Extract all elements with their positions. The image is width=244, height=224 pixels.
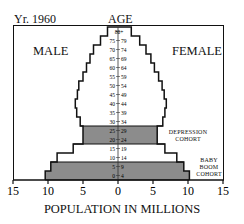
svg-text:0: 0 [112,173,115,179]
svg-text:20: 20 [110,137,116,143]
svg-text:70: 70 [110,47,116,53]
x-axis-title: POPULATION IN MILLIONS [24,202,220,217]
population-pyramid: 0459101415192024252930343539404445495054… [0,0,244,224]
x-tick-label: 15 [217,184,229,198]
depression-cohort-label: DEPRESSION COHORT [160,129,216,143]
svg-text:34: 34 [121,119,127,125]
svg-text:5: 5 [112,164,115,170]
svg-text:39: 39 [121,110,127,116]
svg-text:24: 24 [121,137,127,143]
x-tick-label: 10 [42,184,54,198]
x-tick-label: 10 [182,184,194,198]
svg-text:25: 25 [110,128,116,134]
x-tick-label: 0 [115,184,121,198]
svg-text:4: 4 [121,173,124,179]
svg-text:55: 55 [110,74,116,80]
svg-text:35: 35 [110,110,116,116]
svg-text:9: 9 [121,164,124,170]
svg-text:54: 54 [121,83,127,89]
svg-text:79: 79 [121,38,127,44]
svg-text:64: 64 [121,65,127,71]
svg-text:40: 40 [110,101,116,107]
svg-text:80+: 80+ [115,29,124,35]
svg-text:49: 49 [121,92,127,98]
svg-text:10: 10 [110,155,116,161]
svg-text:15: 15 [110,146,116,152]
x-tick-label: 15 [7,184,19,198]
svg-text:29: 29 [121,128,127,134]
svg-text:75: 75 [110,38,116,44]
svg-text:14: 14 [121,155,127,161]
svg-text:44: 44 [121,101,127,107]
svg-text:60: 60 [110,65,116,71]
svg-text:50: 50 [110,83,116,89]
svg-text:30: 30 [110,119,116,125]
svg-text:74: 74 [121,47,127,53]
svg-text:19: 19 [121,146,127,152]
svg-text:65: 65 [110,56,116,62]
svg-text:45: 45 [110,92,116,98]
x-tick-label: 5 [150,184,156,198]
baby-boom-cohort-label: BABY BOOM COHORT [192,157,226,178]
svg-text:69: 69 [121,56,127,62]
x-tick-label: 5 [80,184,86,198]
svg-text:59: 59 [121,74,127,80]
